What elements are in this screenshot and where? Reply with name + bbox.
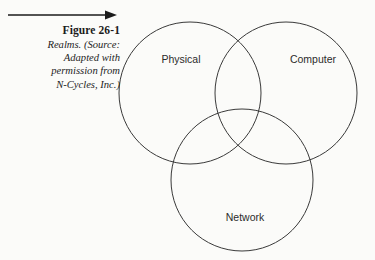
venn-label-computer: Computer [290, 53, 337, 65]
venn-circle-computer [215, 22, 357, 164]
figure-page: Figure 26-1 Realms. (Source: Adapted wit… [0, 0, 375, 260]
right-arrow-icon [6, 8, 118, 22]
venn-circle-network [171, 109, 313, 251]
figure-caption: Figure 26-1 Realms. (Source: Adapted wit… [4, 8, 120, 91]
caption-line-2: Adapted with [4, 51, 120, 64]
caption-line-3: permission from [4, 64, 120, 77]
venn-circle-physical [119, 22, 261, 164]
caption-line-1: Realms. (Source: [4, 38, 120, 51]
venn-label-network: Network [226, 211, 265, 223]
figure-number: Figure 26-1 [4, 23, 120, 37]
venn-diagram: Physical Computer Network [110, 0, 375, 260]
figure-description: Realms. (Source: Adapted with permission… [4, 38, 120, 91]
venn-label-physical: Physical [161, 53, 200, 65]
caption-line-4: N-Cycles, Inc.) [4, 78, 120, 91]
